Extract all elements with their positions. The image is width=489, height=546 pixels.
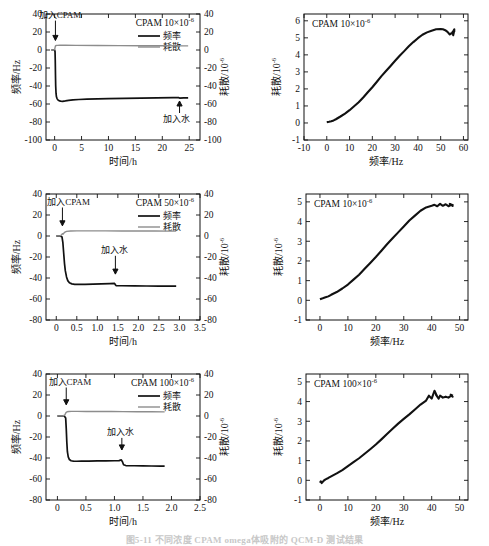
svg-text:-100: -100 [25, 135, 43, 145]
svg-text:3: 3 [297, 417, 302, 427]
svg-text:0: 0 [297, 296, 302, 306]
svg-text:60: 60 [459, 143, 469, 153]
svg-text:-80: -80 [29, 315, 42, 325]
svg-text:-60: -60 [204, 474, 217, 484]
svg-text:-40: -40 [29, 273, 42, 283]
svg-text:耗散: 耗散 [163, 41, 181, 52]
svg-text:0: 0 [204, 411, 209, 421]
figure-caption: 图5-11 不同浓度 CPAM omega体吸附的 QCM-D 测试结果 [0, 533, 489, 546]
svg-text:20: 20 [33, 390, 43, 400]
svg-text:-60: -60 [204, 294, 217, 304]
svg-text:时间/h: 时间/h [109, 515, 137, 527]
svg-text:3.0: 3.0 [174, 323, 186, 333]
svg-text:5: 5 [295, 33, 300, 43]
svg-text:0: 0 [37, 45, 42, 55]
svg-text:20: 20 [371, 323, 381, 333]
svg-text:5: 5 [297, 377, 302, 387]
panel-e-frequency-time-100: 00.51.01.52.02.540200-20-40-60-8040200-2… [0, 358, 250, 538]
svg-text:耗散/10-6: 耗散/10-6 [218, 57, 230, 96]
panel-f-dissipation-frequency-100: 01020304050-1012345频率/Hz耗散/10-6CPAM 100×… [250, 358, 489, 538]
svg-text:频率: 频率 [163, 30, 181, 41]
svg-text:0: 0 [54, 323, 59, 333]
svg-text:-60: -60 [204, 99, 217, 109]
svg-text:10: 10 [343, 503, 353, 513]
svg-text:-1: -1 [292, 135, 300, 145]
svg-text:30: 30 [399, 503, 409, 513]
svg-text:0: 0 [37, 231, 42, 241]
svg-text:10: 10 [343, 323, 353, 333]
svg-text:0: 0 [55, 503, 60, 513]
svg-text:CPAM 100×10-6: CPAM 100×10-6 [314, 377, 378, 389]
svg-text:0.5: 0.5 [71, 323, 83, 333]
svg-text:1.5: 1.5 [137, 503, 149, 513]
svg-text:0: 0 [318, 323, 323, 333]
svg-text:CPAM 10×10-6: CPAM 10×10-6 [136, 16, 195, 28]
svg-text:加入水: 加入水 [107, 426, 134, 437]
svg-text:频率/Hz: 频率/Hz [370, 515, 405, 527]
svg-text:10: 10 [104, 143, 114, 153]
svg-text:4: 4 [297, 397, 302, 407]
svg-text:0: 0 [324, 143, 329, 153]
svg-text:3: 3 [295, 67, 300, 77]
svg-text:时间/h: 时间/h [109, 335, 137, 347]
svg-text:频率: 频率 [163, 210, 181, 221]
svg-text:40: 40 [427, 323, 437, 333]
svg-text:20: 20 [204, 27, 214, 37]
svg-text:耗散/10-6: 耗散/10-6 [270, 57, 282, 96]
svg-text:40: 40 [427, 503, 437, 513]
panel-c-frequency-time-50: 00.51.01.52.02.53.03.540200-20-40-60-804… [0, 178, 250, 358]
svg-text:加入水: 加入水 [163, 113, 190, 124]
svg-text:-20: -20 [29, 432, 42, 442]
svg-text:频率/Hz: 频率/Hz [10, 419, 22, 454]
svg-text:-100: -100 [204, 135, 222, 145]
svg-text:-80: -80 [204, 117, 217, 127]
svg-text:耗散: 耗散 [163, 401, 181, 412]
svg-text:1.5: 1.5 [112, 323, 124, 333]
svg-text:0: 0 [204, 231, 209, 241]
svg-text:2.0: 2.0 [132, 323, 144, 333]
svg-text:20: 20 [158, 143, 168, 153]
svg-text:4: 4 [297, 217, 302, 227]
svg-text:0: 0 [204, 45, 209, 55]
svg-text:50: 50 [436, 143, 446, 153]
svg-text:0: 0 [295, 118, 300, 128]
svg-text:CPAM 100×10-6: CPAM 100×10-6 [131, 376, 195, 388]
svg-text:-80: -80 [204, 315, 217, 325]
svg-text:加入CPAM: 加入CPAM [39, 10, 82, 20]
svg-text:1.0: 1.0 [109, 503, 121, 513]
svg-text:5: 5 [297, 197, 302, 207]
svg-text:-1: -1 [294, 495, 302, 505]
svg-text:-20: -20 [29, 252, 42, 262]
svg-text:加入CPAM: 加入CPAM [49, 377, 92, 387]
svg-text:-20: -20 [204, 432, 217, 442]
panel-grid: 051015202540200-20-40-60-80-10040200-20-… [0, 0, 489, 538]
svg-text:-60: -60 [29, 99, 42, 109]
svg-text:2: 2 [295, 84, 300, 94]
svg-text:耗散/10-6: 耗散/10-6 [272, 237, 284, 276]
svg-text:CPAM 50×10-6: CPAM 50×10-6 [136, 196, 195, 208]
svg-text:加入水: 加入水 [101, 244, 128, 255]
svg-text:40: 40 [204, 369, 214, 379]
svg-text:频率/Hz: 频率/Hz [369, 155, 404, 167]
svg-text:6: 6 [295, 16, 300, 26]
svg-text:30: 30 [399, 323, 409, 333]
svg-text:2.0: 2.0 [166, 503, 178, 513]
svg-text:2: 2 [297, 256, 302, 266]
svg-text:1: 1 [295, 101, 300, 111]
svg-text:-1: -1 [294, 315, 302, 325]
svg-text:1: 1 [297, 456, 302, 466]
svg-text:20: 20 [33, 210, 43, 220]
svg-text:20: 20 [204, 210, 214, 220]
svg-text:5: 5 [79, 143, 84, 153]
svg-text:加入CPAM: 加入CPAM [47, 197, 90, 207]
svg-text:50: 50 [455, 503, 465, 513]
svg-text:15: 15 [131, 143, 141, 153]
svg-text:-40: -40 [29, 81, 42, 91]
svg-text:-40: -40 [29, 453, 42, 463]
svg-text:-60: -60 [29, 294, 42, 304]
svg-text:耗散/10-6: 耗散/10-6 [272, 417, 284, 456]
svg-text:频率/Hz: 频率/Hz [10, 59, 22, 94]
svg-text:3: 3 [297, 237, 302, 247]
svg-text:频率: 频率 [163, 390, 181, 401]
svg-text:0: 0 [52, 143, 57, 153]
